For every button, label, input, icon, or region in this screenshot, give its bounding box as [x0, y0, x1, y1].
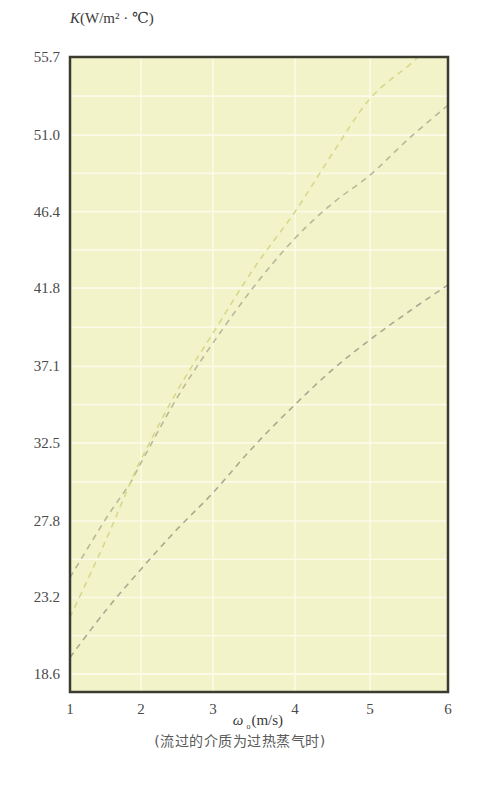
x-axis-title-var: ω	[233, 712, 244, 728]
y-tick-label: 27.8	[34, 513, 60, 529]
x-tick-label: 6	[444, 701, 452, 717]
chart-caption: (流过的介质为过热蒸气时)	[0, 730, 480, 750]
y-tick-label: 23.2	[34, 589, 60, 605]
x-tick-label: 5	[366, 701, 374, 717]
x-axis-title: ωo(m/s)	[233, 712, 283, 731]
y-tick-label: 51.0	[34, 127, 60, 143]
x-tick-label: 4	[291, 701, 299, 717]
y-tick-label: 46.4	[34, 204, 61, 220]
chart: K(W/m² · ℃) 55.751.046.441.837.132.527.8…	[0, 0, 480, 790]
x-tick-label: 3	[209, 701, 217, 717]
x-axis-title-unit: (m/s)	[251, 712, 283, 729]
y-tick-labels: 55.751.046.441.837.132.527.823.218.6	[34, 49, 61, 682]
y-tick-label: 32.5	[34, 435, 60, 451]
x-tick-label: 1	[66, 701, 74, 717]
x-tick-label: 2	[137, 701, 145, 717]
y-axis-title-unit: (W/m² · ℃)	[80, 10, 154, 27]
y-tick-label: 41.8	[34, 280, 60, 296]
y-tick-label: 37.1	[34, 358, 60, 374]
y-tick-label: 55.7	[34, 49, 61, 65]
y-axis-title: K(W/m² · ℃)	[69, 10, 154, 27]
y-tick-label: 18.6	[34, 666, 61, 682]
